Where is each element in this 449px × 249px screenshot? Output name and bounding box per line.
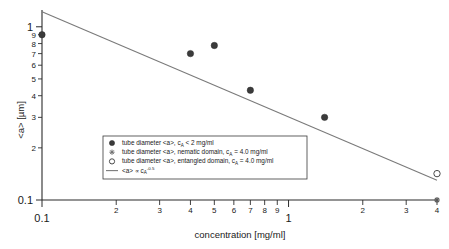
data-point-filled [247,87,253,93]
y-axis-title: <a> [µm] [15,101,26,139]
y-tick-label-minor: 7 [32,50,37,59]
x-axis-title: concentration [mg/ml] [195,229,286,240]
x-tick-label-minor: 2 [114,206,119,215]
data-point-open [434,170,440,176]
y-tick-label-minor: 6 [32,61,37,70]
data-point-star [434,197,440,203]
x-tick-label-minor: 2 [361,206,366,215]
y-tick-label-minor: 2 [32,144,37,153]
x-tick-label-minor: 4 [435,206,440,215]
x-tick-label: 1 [285,212,291,224]
x-tick-label-minor: 8 [262,206,267,215]
x-tick-label-minor: 3 [157,206,162,215]
y-tick-label-minor: 8 [32,40,37,49]
legend-marker-filled-circle [109,140,114,145]
data-point-filled [187,50,193,56]
x-tick-label-minor: 7 [248,206,253,215]
y-tick-label-minor: 9 [32,31,37,40]
y-tick-label-minor: 5 [32,75,37,84]
figure-container: 10.198765432 0.1123456789234 <a> [µm] co… [0,0,449,249]
x-tick-label-minor: 9 [275,206,280,215]
legend-marker-star [109,150,114,155]
y-tick-label: 0.1 [18,194,33,206]
x-tick-label-minor: 4 [188,206,193,215]
y-tick-label-minor: 4 [32,92,37,101]
x-axis-ticks: 0.1123456789234 [34,200,439,224]
data-point-filled [321,114,327,120]
data-point-filled [39,32,45,38]
x-tick-label-minor: 5 [212,206,217,215]
legend: tube diameter <a>, cA < 2 mg/mltube diam… [103,136,307,179]
legend-marker-open-circle [109,159,114,164]
data-point-filled [211,42,217,48]
x-tick-label-minor: 3 [404,206,409,215]
x-tick-label-minor: 6 [232,206,237,215]
y-tick-label-minor: 3 [32,113,37,122]
log-log-scatter-plot: 10.198765432 0.1123456789234 <a> [µm] co… [0,0,449,249]
x-tick-label: 0.1 [34,212,49,224]
